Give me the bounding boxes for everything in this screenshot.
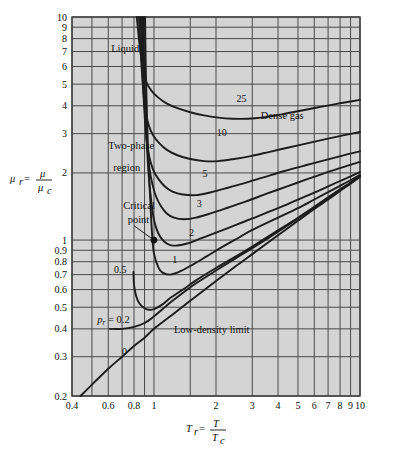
annotation-low-density-limit: Low-density limit	[174, 324, 250, 335]
y-tick-label: 0.6	[55, 284, 68, 295]
x-tick-label: 10	[355, 400, 365, 411]
y-tick-label: 0.7	[55, 269, 68, 280]
x-axis-title-den-sub-c: c	[220, 435, 225, 446]
annotation-critical-point-2: point	[128, 214, 150, 225]
y-tick-label: 9	[62, 22, 67, 33]
y-tick-label: 10	[57, 12, 67, 23]
y-axis-title-mu: μ	[9, 173, 15, 184]
y-tick-label: 3	[62, 128, 67, 139]
annotation-critical-point-1: Critical	[123, 200, 155, 211]
x-tick-label: 4	[276, 400, 281, 411]
y-tick-label: 5	[62, 79, 67, 90]
annotation-two-phase-region-1: Two-phase	[108, 140, 154, 151]
y-tick-label: 0.9	[55, 245, 68, 256]
x-tick-label: 7	[326, 400, 331, 411]
y-tick-label: 6	[62, 61, 67, 72]
x-tick-label: 6	[312, 400, 317, 411]
x-tick-label: 8	[338, 400, 343, 411]
annotation-liquid: Liquid	[111, 43, 140, 54]
x-tick-label: 0.6	[102, 400, 115, 411]
curve-label-2: 2	[189, 227, 194, 238]
curve-label-3: 3	[197, 198, 202, 209]
chart-canvas: 0.40.60.812345678910 0.20.30.40.50.60.70…	[0, 0, 394, 457]
y-axis-title-den: μ	[37, 182, 43, 193]
viscosity-chart: 0.40.60.812345678910 0.20.30.40.50.60.70…	[0, 0, 394, 457]
y-tick-label: 0.8	[55, 256, 68, 267]
curve-label-5: 5	[203, 168, 208, 179]
y-axis-title-num: μ	[39, 168, 45, 179]
y-tick-label: 0.2	[55, 391, 68, 402]
curve-label-0: 0	[122, 346, 127, 357]
y-tick-label: 4	[62, 100, 67, 111]
y-tick-label: 2	[62, 167, 67, 178]
y-axis-title-equals: =	[24, 173, 30, 184]
curve-label-10: 10	[217, 127, 227, 138]
y-axis-title-den-sub-c: c	[47, 185, 52, 196]
x-tick-label: 9	[348, 400, 353, 411]
curve-label-1: 1	[172, 254, 177, 265]
x-axis-title-equals: =	[199, 423, 205, 434]
critical-point-dot	[151, 237, 158, 244]
x-tick-label: 5	[295, 400, 300, 411]
x-tick-label: 3	[250, 400, 255, 411]
y-tick-label: 0.5	[55, 302, 68, 313]
x-tick-label: 2	[214, 400, 219, 411]
y-tick-label: 0.3	[55, 351, 68, 362]
curve-label-25: 25	[237, 93, 247, 104]
annotation-dense-gas: Dense gas	[261, 110, 304, 121]
y-tick-label: 1	[62, 235, 67, 246]
annotation-two-phase-region-2: region	[113, 162, 141, 173]
x-tick-label: 1	[151, 400, 156, 411]
curve-label-0.5: 0.5	[114, 264, 127, 275]
y-tick-label: 7	[62, 46, 67, 57]
x-tick-label: 0.8	[128, 400, 141, 411]
y-tick-label: 8	[62, 33, 67, 44]
y-tick-label: 0.4	[55, 323, 68, 334]
x-tick-label: 0.4	[66, 400, 79, 411]
